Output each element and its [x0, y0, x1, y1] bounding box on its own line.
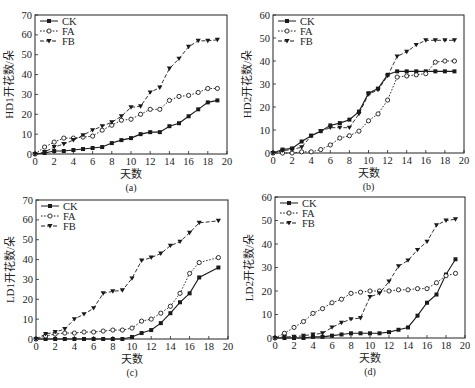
data-point	[368, 289, 372, 293]
y-tick-label: 20	[22, 109, 33, 120]
data-point	[339, 321, 344, 325]
data-point	[197, 275, 201, 279]
data-point	[434, 281, 438, 285]
y-tick-label: 10	[262, 309, 273, 320]
legend-marker	[287, 201, 291, 205]
legend: CKFAFB	[278, 16, 315, 47]
data-point	[196, 107, 200, 111]
data-point	[43, 145, 47, 149]
data-point	[359, 331, 363, 335]
y-tick-label: 70	[22, 10, 33, 21]
data-point	[424, 72, 428, 76]
data-point	[158, 107, 162, 111]
data-point	[140, 331, 144, 335]
legend-marker	[287, 211, 291, 215]
data-point	[101, 329, 105, 333]
data-point	[92, 330, 96, 334]
data-point	[425, 287, 429, 291]
series-fa	[273, 271, 458, 340]
x-tick-label: 14	[401, 155, 412, 166]
legend-marker	[47, 29, 51, 33]
y-tick-label: 30	[262, 262, 273, 273]
data-point	[368, 331, 372, 335]
legend-label: FB	[62, 36, 75, 47]
series-line	[275, 259, 456, 338]
data-point	[433, 60, 437, 64]
series-ck	[33, 98, 219, 156]
y-tick-label: 0	[267, 333, 272, 344]
data-point	[452, 59, 456, 63]
data-point	[328, 143, 332, 147]
data-point	[358, 290, 362, 294]
data-point	[177, 121, 181, 125]
x-tick-label: 8	[110, 341, 115, 352]
chart-canvas: 02468101214161820010203040506070天数HD1开花数…	[0, 0, 475, 388]
y-tick-label: 40	[260, 56, 271, 67]
data-point	[63, 331, 67, 335]
x-tick-label: 10	[365, 340, 376, 351]
panel-b: 024681012141618200102030405060天数HD2开花数/朵…	[241, 10, 469, 194]
data-point	[397, 328, 401, 332]
data-point	[101, 337, 105, 341]
data-point	[52, 140, 56, 144]
data-point	[395, 75, 399, 79]
data-point	[311, 311, 315, 315]
x-tick-label: 0	[32, 156, 37, 167]
x-tick-label: 16	[421, 155, 432, 166]
data-point	[129, 117, 133, 121]
data-point	[148, 130, 152, 134]
x-tick-label: 0	[33, 341, 38, 352]
panel-label: (b)	[363, 181, 375, 193]
series-ck	[271, 69, 456, 155]
y-tick-label: 0	[28, 334, 33, 345]
data-point	[405, 258, 410, 262]
x-tick-label: 12	[145, 156, 156, 167]
data-point	[416, 314, 420, 318]
data-point	[320, 307, 324, 311]
data-point	[319, 147, 323, 151]
data-point	[100, 128, 104, 132]
data-point	[434, 223, 439, 227]
y-tick-label: 10	[260, 125, 271, 136]
data-point	[72, 331, 76, 335]
data-point	[120, 288, 125, 292]
panel-label: (a)	[125, 182, 136, 194]
data-point	[405, 69, 409, 73]
data-point	[100, 145, 104, 149]
legend: CKFAFB	[41, 201, 78, 232]
data-point	[366, 119, 370, 123]
y-tick-label: 20	[23, 294, 34, 305]
data-point	[158, 252, 163, 256]
y-tick-label: 0	[265, 148, 270, 159]
data-point	[300, 140, 304, 144]
x-tick-label: 14	[403, 340, 414, 351]
data-point	[52, 149, 56, 153]
data-point	[395, 54, 400, 58]
data-point	[338, 121, 342, 125]
series-fa	[271, 59, 457, 155]
data-point	[414, 43, 419, 47]
x-axis-title: 天数	[358, 167, 380, 179]
legend-label: FB	[300, 36, 313, 47]
data-point	[300, 150, 304, 154]
data-point	[347, 118, 351, 122]
x-tick-label: 10	[363, 155, 374, 166]
data-point	[404, 50, 409, 54]
data-point	[119, 118, 123, 122]
data-point	[129, 136, 133, 140]
data-point	[406, 325, 410, 329]
legend-item-fb: FB	[280, 218, 315, 229]
data-point	[167, 124, 171, 128]
x-tick-label: 4	[72, 341, 78, 352]
y-tick-label: 30	[22, 89, 33, 100]
data-point	[406, 288, 410, 292]
y-tick-label: 10	[22, 129, 33, 140]
data-point	[387, 330, 391, 334]
data-point	[215, 98, 219, 102]
data-point	[206, 86, 210, 90]
data-point	[167, 67, 172, 71]
data-point	[120, 337, 124, 341]
series-ck	[273, 257, 458, 340]
x-axis-title: 天数	[121, 353, 143, 365]
data-point	[301, 319, 305, 323]
